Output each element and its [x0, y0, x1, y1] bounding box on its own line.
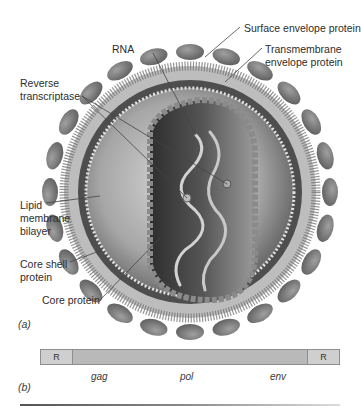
gene-gag: gag	[91, 371, 108, 382]
gene-pol: pol	[180, 371, 193, 382]
panel-b-label: (b)	[18, 381, 31, 393]
label-transmembrane-line2: envelope protein	[265, 56, 343, 68]
label-reverse-transcriptase-line2: transcriptase	[20, 90, 80, 102]
label-lipid-line3: bilayer	[20, 225, 51, 237]
panel-a-label: (a)	[18, 318, 31, 330]
divider-rule	[20, 404, 340, 406]
gene-env: env	[270, 371, 286, 382]
label-core-protein: Core protein	[42, 294, 100, 306]
ltr-right: R	[307, 349, 340, 365]
ltr-left: R	[40, 349, 73, 365]
label-surface-envelope-protein: Surface envelope protein	[244, 22, 361, 34]
label-reverse-transcriptase-line1: Reverse	[20, 77, 59, 89]
label-transmembrane-line1: Transmembrane	[265, 43, 342, 55]
genome-bar	[40, 349, 340, 365]
label-lipid-line2: membrane	[20, 212, 70, 224]
label-rna: RNA	[112, 43, 134, 55]
label-core-shell-line2: protein	[20, 271, 52, 283]
label-core-shell-line1: Core shell	[20, 258, 67, 270]
core-protein	[150, 100, 255, 300]
label-lipid-line1: Lipid	[20, 199, 42, 211]
